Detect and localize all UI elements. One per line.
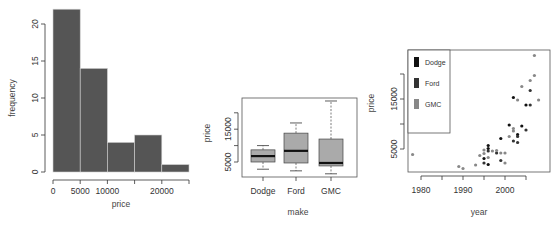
- data-point-dodge: [487, 144, 490, 147]
- data-point-ford: [529, 89, 532, 92]
- hist-y-tick-label: 5: [30, 132, 40, 137]
- data-point-ford: [512, 139, 515, 142]
- box-ylabel: price: [202, 124, 212, 143]
- legend-swatch-ford: [414, 78, 419, 88]
- histogram-bar: [80, 68, 107, 172]
- data-point-gmc: [457, 165, 460, 168]
- histogram-bar: [135, 135, 162, 172]
- data-point-gmc: [508, 135, 511, 138]
- hist-x-tick-label: 20000: [150, 186, 174, 196]
- histogram-bar: [107, 142, 134, 172]
- data-point-dodge: [512, 96, 515, 99]
- legend-swatch-gmc: [414, 99, 419, 109]
- hist-xlabel: price: [112, 199, 131, 209]
- box-x-tick-label: GMC: [321, 186, 341, 196]
- scatter-panel: DodgeFordGMC500015000198019902000: [389, 50, 550, 195]
- data-point-gmc: [487, 156, 490, 159]
- data-point-dodge: [487, 163, 490, 166]
- scatter-xlabel: year: [471, 207, 488, 217]
- hist-y-tick-label: 0: [30, 169, 40, 174]
- histogram-panel: 05101520050001000020000: [30, 9, 189, 196]
- hist-ylabel: frequency: [7, 79, 17, 117]
- legend-swatch-dodge: [414, 57, 419, 67]
- data-point-ford: [482, 161, 485, 164]
- box-x-tick-label: Dodge: [250, 186, 275, 196]
- data-point-ford: [524, 128, 527, 131]
- figure: 05101520050001000020000 price frequency …: [0, 0, 558, 233]
- data-point-ford: [516, 135, 519, 138]
- data-point-gmc: [520, 85, 523, 88]
- scatter-y-tick-label: 5000: [389, 139, 399, 158]
- hist-y-tick-label: 10: [30, 93, 40, 103]
- data-point-gmc: [478, 154, 481, 157]
- box-y-tick-label: 15000: [223, 117, 233, 141]
- scatter-x-tick-label: 1980: [412, 185, 431, 195]
- data-point-gmc: [516, 98, 519, 101]
- box-ford: [284, 133, 308, 163]
- data-point-gmc: [474, 163, 477, 166]
- data-point-gmc: [512, 129, 515, 132]
- hist-y-tick-label: 20: [30, 19, 40, 29]
- data-point-gmc: [533, 74, 536, 77]
- scatter-x-tick-label: 1990: [454, 185, 473, 195]
- box-y-tick-label: 5000: [223, 152, 233, 171]
- data-point-ford: [499, 159, 502, 162]
- box-xlabel: make: [288, 207, 309, 217]
- scatter-y-tick-label: 15000: [389, 87, 399, 111]
- data-point-gmc: [503, 161, 506, 164]
- data-point-ford: [487, 149, 490, 152]
- hist-y-tick-label: 15: [30, 56, 40, 66]
- data-point-gmc: [533, 54, 536, 57]
- data-point-gmc: [482, 148, 485, 151]
- data-point-dodge: [508, 123, 511, 126]
- data-point-gmc: [482, 152, 485, 155]
- data-point-gmc: [491, 149, 494, 152]
- scatter-ylabel: price: [366, 94, 376, 113]
- data-point-dodge: [499, 137, 502, 140]
- data-point-gmc: [411, 153, 414, 156]
- data-point-gmc: [499, 151, 502, 154]
- hist-x-tick-label: 5000: [71, 186, 90, 196]
- data-point-gmc: [537, 98, 540, 101]
- data-point-dodge: [520, 124, 523, 127]
- data-point-ford: [529, 103, 532, 106]
- scatter-x-tick-label: 2000: [496, 185, 515, 195]
- histogram-bar: [162, 165, 189, 172]
- data-point-gmc: [461, 167, 464, 170]
- boxplot-panel: DodgeFordGMC500015000: [223, 98, 357, 196]
- data-point-dodge: [524, 103, 527, 106]
- hist-x-tick-label: 0: [51, 186, 56, 196]
- legend-label: Ford: [425, 80, 440, 87]
- data-point-gmc: [495, 149, 498, 152]
- data-point-gmc: [529, 79, 532, 82]
- data-point-gmc: [503, 151, 506, 154]
- legend-label: GMC: [425, 101, 441, 108]
- legend-label: Dodge: [425, 59, 446, 67]
- box-x-tick-label: Ford: [287, 186, 305, 196]
- data-point-ford: [516, 141, 519, 144]
- histogram-bar: [53, 9, 80, 172]
- data-point-dodge: [482, 157, 485, 160]
- hist-x-tick-label: 10000: [96, 186, 120, 196]
